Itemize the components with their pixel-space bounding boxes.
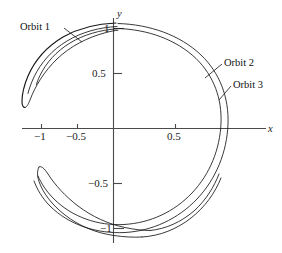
bottom-join-curve [142, 178, 221, 237]
orbit-3-leader-line [219, 86, 231, 100]
orbit-2-leader-line [205, 64, 222, 78]
y-tick-label--1: −1 [100, 223, 112, 234]
x-tick-label--1: −1 [34, 131, 46, 142]
orbit-1-label: Orbit 1 [20, 22, 50, 33]
orbit-2-label: Orbit 2 [224, 58, 254, 69]
orbit-plot-figure: −1 −0.5 0.5 1 0.5 −0.5 −1 x y Orbit 1 Or… [0, 0, 282, 253]
orbit-curves-group [22, 23, 228, 237]
y-tick-label--0.5: −0.5 [88, 178, 108, 189]
bottom-join-inner-curve [150, 174, 219, 231]
x-axis-label: x [268, 124, 273, 135]
y-axis-label: y [117, 9, 122, 20]
orbit-3-label: Orbit 3 [233, 80, 263, 91]
x-tick-label--0.5: −0.5 [66, 131, 86, 142]
orbit-1-outer-curve [22, 23, 116, 108]
x-tick-label-0.5: 0.5 [167, 131, 181, 142]
plot-canvas [0, 0, 282, 253]
y-tick-label-0.5: 0.5 [92, 68, 106, 79]
y-tick-label-1: 1 [104, 23, 110, 34]
annotation-leaders-group [64, 28, 231, 100]
orbit-1-filament-curve [28, 27, 117, 94]
